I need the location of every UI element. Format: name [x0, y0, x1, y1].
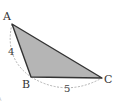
triangle-abc	[12, 24, 102, 78]
vertex-label-c: C	[104, 73, 112, 86]
side-label-ab: 4	[8, 46, 14, 57]
triangle-diagram: A B C 4 5 A	[0, 0, 121, 102]
vertex-label-b: B	[22, 78, 30, 91]
side-label-bc: 5	[64, 83, 70, 94]
footnote-mark: A	[0, 96, 2, 102]
vertex-label-a: A	[2, 10, 12, 23]
